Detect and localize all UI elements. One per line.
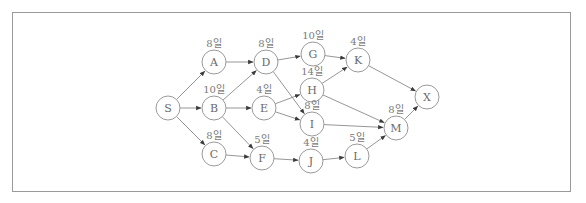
node-label: E xyxy=(260,102,268,115)
duration-label: 8일 xyxy=(388,104,403,115)
node-s: S xyxy=(156,96,180,120)
duration-label: 14일 xyxy=(301,66,323,77)
edge-l-m xyxy=(367,136,386,149)
duration-label: 4일 xyxy=(350,36,365,47)
node-label: X xyxy=(423,91,431,104)
node-x: X xyxy=(415,85,439,109)
edge-i-m xyxy=(324,125,383,128)
edge-h-m xyxy=(323,95,384,123)
edge-g-k xyxy=(325,56,345,59)
duration-label: 4일 xyxy=(303,137,318,148)
node-j: J4일 xyxy=(299,137,323,173)
node-m: M8일 xyxy=(384,104,408,140)
node-d: D8일 xyxy=(254,38,278,74)
node-label: K xyxy=(354,54,363,67)
duration-label: 10일 xyxy=(302,30,324,41)
edge-s-a xyxy=(177,71,205,99)
node-label: A xyxy=(209,56,219,69)
edge-s-c xyxy=(177,117,205,145)
duration-label: 10일 xyxy=(203,84,225,95)
activity-network-diagram: SA8일B10일C8일D8일E4일F5일G10일H14일I8일J4일K4일L5일… xyxy=(0,0,586,203)
node-b: B10일 xyxy=(202,84,226,120)
edge-b-f xyxy=(222,117,253,149)
node-label: S xyxy=(164,102,172,115)
duration-label: 8일 xyxy=(206,130,221,141)
edge-f-j xyxy=(274,159,298,161)
edge-b-d xyxy=(223,71,256,100)
node-label: I xyxy=(310,118,314,131)
edge-j-l xyxy=(323,157,344,159)
node-label: D xyxy=(262,56,271,69)
edge-m-x xyxy=(405,106,418,119)
node-f: F5일 xyxy=(250,134,274,170)
edge-c-f xyxy=(226,155,249,157)
duration-label: 5일 xyxy=(254,134,269,145)
node-label: J xyxy=(308,155,313,168)
node-label: H xyxy=(307,84,317,97)
duration-label: 8일 xyxy=(258,38,273,49)
duration-label: 8일 xyxy=(206,38,221,49)
node-label: F xyxy=(258,152,266,165)
node-k: K4일 xyxy=(346,36,370,72)
edge-h-k xyxy=(322,67,347,83)
node-label: B xyxy=(210,102,218,115)
duration-label: 8일 xyxy=(304,100,319,111)
node-l: L5일 xyxy=(345,132,369,168)
nodes-layer: SA8일B10일C8일D8일E4일F5일G10일H14일I8일J4일K4일L5일… xyxy=(156,30,439,173)
node-label: M xyxy=(390,122,401,135)
node-a: A8일 xyxy=(202,38,226,74)
node-label: C xyxy=(210,148,218,161)
node-i: I8일 xyxy=(300,100,324,136)
edge-e-i xyxy=(275,112,299,120)
duration-label: 4일 xyxy=(256,84,271,95)
node-g: G10일 xyxy=(301,30,325,66)
node-label: L xyxy=(353,150,361,163)
node-c: C8일 xyxy=(202,130,226,166)
node-h: H14일 xyxy=(300,66,324,102)
edge-k-x xyxy=(369,66,416,91)
edge-d-i xyxy=(273,72,304,114)
duration-label: 5일 xyxy=(349,132,364,143)
node-label: G xyxy=(309,48,318,61)
edge-d-g xyxy=(278,56,300,60)
node-e: E4일 xyxy=(252,84,276,120)
